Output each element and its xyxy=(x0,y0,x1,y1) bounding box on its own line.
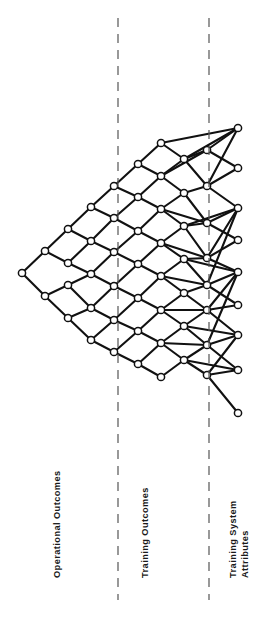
edge-layer xyxy=(22,128,238,413)
graph-node[interactable] xyxy=(64,314,71,321)
graph-edge xyxy=(138,176,161,197)
graph-node[interactable] xyxy=(87,336,94,343)
graph-edge xyxy=(138,310,161,331)
graph-node[interactable] xyxy=(110,316,117,323)
graph-node[interactable] xyxy=(234,301,241,308)
graph-node[interactable] xyxy=(234,268,241,275)
graph-node[interactable] xyxy=(180,189,187,196)
graph-node[interactable] xyxy=(110,282,117,289)
graph-node[interactable] xyxy=(41,292,48,299)
zone-label-line: Training Outcomes xyxy=(140,487,152,578)
graph-node[interactable] xyxy=(234,331,241,338)
graph-edge xyxy=(207,186,238,208)
graph-edge xyxy=(68,285,91,308)
graph-node[interactable] xyxy=(157,373,164,380)
graph-edge xyxy=(207,285,238,305)
graph-node[interactable] xyxy=(110,248,117,255)
graph-edge xyxy=(45,229,68,251)
graph-node[interactable] xyxy=(134,360,141,367)
graph-edge xyxy=(138,243,161,264)
graph-node[interactable] xyxy=(157,339,164,346)
graph-edge xyxy=(184,159,207,186)
graph-edge xyxy=(91,252,114,274)
graph-node[interactable] xyxy=(180,322,187,329)
graph-node[interactable] xyxy=(234,409,241,416)
graph-node[interactable] xyxy=(110,214,117,221)
graph-edge xyxy=(138,143,161,164)
graph-edge xyxy=(68,241,91,263)
graph-node[interactable] xyxy=(64,281,71,288)
graph-node[interactable] xyxy=(64,225,71,232)
graph-node[interactable] xyxy=(234,124,241,131)
graph-edge xyxy=(22,251,45,273)
graph-node[interactable] xyxy=(134,193,141,200)
zone-label-operational-outcomes: Operational Outcomes xyxy=(52,470,64,578)
graph-node[interactable] xyxy=(134,260,141,267)
graph-edge xyxy=(138,209,161,231)
graph-node[interactable] xyxy=(87,237,94,244)
network-diagram-figure: Operational Outcomes Training Outcomes T… xyxy=(0,0,256,620)
graph-node[interactable] xyxy=(110,182,117,189)
graph-edge xyxy=(207,370,238,375)
graph-edge xyxy=(207,375,238,413)
graph-edge xyxy=(91,320,114,340)
graph-edge xyxy=(68,207,91,229)
graph-edge xyxy=(91,218,114,241)
graph-edge xyxy=(45,296,68,318)
graph-edge xyxy=(91,286,114,308)
graph-node[interactable] xyxy=(134,227,141,234)
graph-node[interactable] xyxy=(180,255,187,262)
graph-node[interactable] xyxy=(18,269,25,276)
graph-node[interactable] xyxy=(234,366,241,373)
zone-label-line: Attributes xyxy=(240,500,252,578)
graph-node[interactable] xyxy=(234,164,241,171)
graph-node[interactable] xyxy=(134,160,141,167)
graph-edge xyxy=(138,343,161,364)
graph-edge xyxy=(68,318,91,340)
graph-node[interactable] xyxy=(157,306,164,313)
graph-node[interactable] xyxy=(87,203,94,210)
graph-edge xyxy=(22,273,45,296)
graph-node[interactable] xyxy=(180,155,187,162)
graph-node[interactable] xyxy=(87,304,94,311)
zone-label-training-system-attributes: Training System Attributes xyxy=(228,500,251,578)
graph-node[interactable] xyxy=(234,204,241,211)
graph-node[interactable] xyxy=(157,139,164,146)
graph-node[interactable] xyxy=(41,247,48,254)
graph-node[interactable] xyxy=(134,327,141,334)
graph-edge xyxy=(91,186,114,207)
graph-node[interactable] xyxy=(203,219,210,226)
graph-node[interactable] xyxy=(87,270,94,277)
graph-canvas xyxy=(0,0,256,620)
graph-node[interactable] xyxy=(180,356,187,363)
graph-node[interactable] xyxy=(64,259,71,266)
graph-node[interactable] xyxy=(110,348,117,355)
graph-edge xyxy=(138,276,161,298)
zone-label-line: Training System xyxy=(228,500,240,578)
graph-node[interactable] xyxy=(234,236,241,243)
zone-label-line: Operational Outcomes xyxy=(52,470,64,578)
zone-label-training-outcomes: Training Outcomes xyxy=(140,487,152,578)
graph-node[interactable] xyxy=(157,172,164,179)
graph-node[interactable] xyxy=(157,205,164,212)
graph-node[interactable] xyxy=(157,272,164,279)
graph-node[interactable] xyxy=(180,222,187,229)
graph-node[interactable] xyxy=(134,294,141,301)
graph-node[interactable] xyxy=(157,239,164,246)
graph-node[interactable] xyxy=(180,289,187,296)
graph-edge xyxy=(161,343,207,345)
